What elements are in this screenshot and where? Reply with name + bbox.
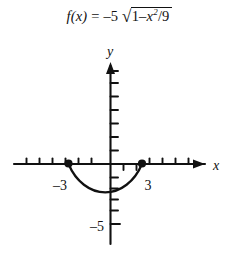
y-axis-label: y <box>105 44 114 59</box>
point-marker-left <box>64 159 72 167</box>
coordinate-plot: –3 3 –5 x y <box>0 0 238 258</box>
point-marker-right <box>138 159 146 167</box>
y-axis-arrowhead-icon <box>106 62 115 74</box>
x-axis-arrowhead-icon <box>193 159 205 168</box>
x-axis-label: x <box>212 158 220 173</box>
tick-label-negative-three: –3 <box>52 178 67 193</box>
tick-label-negative-five: –5 <box>89 219 104 234</box>
y-axis-ticks-negative <box>111 178 121 225</box>
y-axis-ticks-positive <box>111 71 119 151</box>
semi-ellipse-curve <box>69 164 143 192</box>
graph-figure: f(x) = –5 √1–x2/9 <box>0 0 238 258</box>
tick-label-positive-three: 3 <box>145 178 152 193</box>
